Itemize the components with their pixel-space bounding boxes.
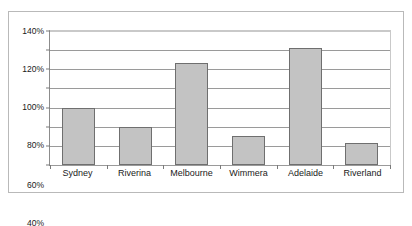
bar-slot (107, 31, 164, 165)
x-axis-tick-label: Wimmera (220, 169, 277, 179)
bar (62, 108, 95, 165)
x-axis-tick-label: Adelaide (277, 169, 334, 179)
bar (232, 136, 265, 165)
bar-slot (50, 31, 107, 165)
x-axis-labels: SydneyRiverinaMelbourneWimmeraAdelaideRi… (49, 169, 391, 179)
bar-slot (220, 31, 277, 165)
bar (119, 127, 152, 165)
x-axis-tick-label: Riverina (106, 169, 163, 179)
bar (289, 48, 322, 165)
bar (345, 143, 378, 165)
x-axis-tick-label: Riverland (334, 169, 391, 179)
plot-area: 140%120%100%80%60%40%20%0% (49, 30, 391, 166)
chart-title-sliver (0, 0, 412, 8)
x-axis-tick-label: Sydney (49, 169, 106, 179)
y-axis-tick-label: 60% (27, 181, 50, 190)
chart-frame: 140%120%100%80%60%40%20%0% SydneyRiverin… (8, 11, 404, 193)
bar-series (50, 31, 390, 165)
bar-chart: 140%120%100%80%60%40%20%0% SydneyRiverin… (0, 0, 412, 204)
bar-slot (277, 31, 334, 165)
bar-slot (333, 31, 390, 165)
x-axis-tick-label: Melbourne (163, 169, 220, 179)
bar (175, 63, 208, 165)
bar-slot (163, 31, 220, 165)
